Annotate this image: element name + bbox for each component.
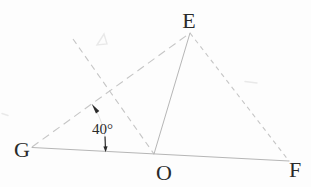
angle-arc-arrowhead-upper [92, 104, 100, 113]
segment-E-F [190, 33, 289, 161]
segment-ray-through-O [73, 39, 154, 154]
geometry-figure: 40° E G O F [0, 0, 311, 187]
scan-artifact-triangle [97, 34, 107, 45]
vertex-label-O: O [156, 160, 172, 185]
angle-measure-label: 40° [92, 121, 113, 137]
vertex-label-E: E [182, 8, 195, 33]
vertex-label-F: F [289, 157, 301, 182]
scan-artifact-dash-right [245, 82, 257, 84]
figure-canvas: 40° E G O F [0, 0, 311, 187]
scan-artifact-dash-left [2, 114, 8, 116]
vertex-label-G: G [14, 137, 30, 162]
segment-E-O [154, 33, 190, 154]
segment-G-F-baseline [32, 148, 289, 162]
